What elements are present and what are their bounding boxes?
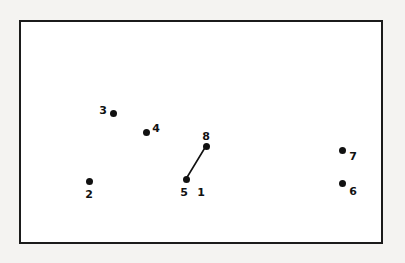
point-label-8: 8 <box>202 131 210 142</box>
diagram-canvas: 12345678 <box>0 0 405 263</box>
point-marker-3[interactable] <box>110 110 117 117</box>
point-marker-4[interactable] <box>143 129 150 136</box>
point-marker-6[interactable] <box>339 180 346 187</box>
point-marker-5[interactable] <box>183 176 190 183</box>
edge-layer <box>186 146 206 179</box>
point-label-3: 3 <box>99 105 107 116</box>
point-label-6: 6 <box>349 186 357 197</box>
point-label-5: 5 <box>180 187 188 198</box>
edge-5-8 <box>186 146 206 179</box>
point-label-4: 4 <box>152 123 160 134</box>
point-marker-2[interactable] <box>86 178 93 185</box>
point-marker-8[interactable] <box>203 143 210 150</box>
point-marker-7[interactable] <box>339 147 346 154</box>
point-label-1: 1 <box>197 187 205 198</box>
point-label-7: 7 <box>349 151 357 162</box>
point-label-2: 2 <box>85 189 93 200</box>
